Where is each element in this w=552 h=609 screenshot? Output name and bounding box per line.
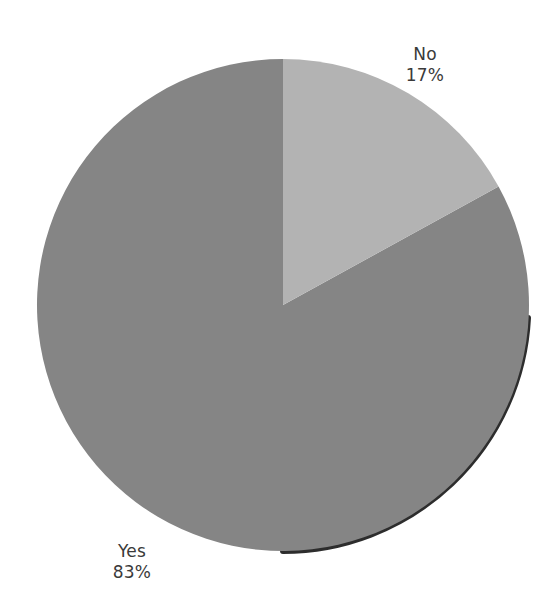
pie-chart-figure: No 17% Yes 83% xyxy=(0,0,552,609)
pie-label-yes-value: 83% xyxy=(92,562,172,583)
pie-label-yes-name: Yes xyxy=(92,541,172,562)
pie-label-yes: Yes 83% xyxy=(92,541,172,583)
pie-label-no-value: 17% xyxy=(385,65,465,86)
pie-label-no-name: No xyxy=(385,44,465,65)
pie-label-no: No 17% xyxy=(385,44,465,86)
pie-chart-canvas xyxy=(0,0,552,609)
